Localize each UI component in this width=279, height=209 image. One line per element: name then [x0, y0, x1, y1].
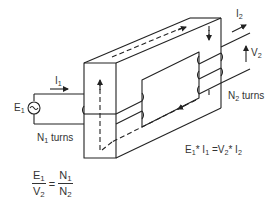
- n2-turns-label: N2 turns: [228, 91, 264, 101]
- equals-sign: =: [46, 178, 58, 190]
- e1-label: E1: [14, 103, 25, 113]
- core-window: [142, 52, 199, 127]
- secondary-top-lead: [221, 33, 250, 47]
- primary-circuit: [28, 89, 84, 124]
- secondary-winding: [198, 25, 251, 94]
- v2-label: V2: [251, 48, 262, 58]
- i2-arrow-icon: [232, 25, 246, 32]
- primary-winding: [83, 93, 144, 124]
- turns-ratio: N1 N2: [58, 170, 72, 197]
- transformer-diagram: I1 I2 E1 V2 N1 turns N2 turns E1* I1 =V2…: [0, 0, 279, 209]
- power-equation: E1* I1 =V2* I2: [185, 145, 242, 155]
- voltage-ratio: E1 V2: [32, 170, 46, 197]
- flux-arrow-left-icon: [178, 105, 186, 109]
- turns-ratio-equation: E1 V2 = N1 N2: [32, 170, 73, 197]
- i2-label: I2: [236, 9, 243, 19]
- core-top-front-edge: [116, 18, 221, 63]
- sine-wave-icon: [30, 107, 38, 110]
- i1-label: I1: [55, 76, 62, 86]
- n1-turns-label: N1 turns: [37, 133, 73, 143]
- secondary-bottom-lead: [221, 69, 250, 83]
- magnetic-core: [84, 18, 221, 158]
- core-top-back-edge: [84, 18, 190, 63]
- core-front-pillar: [84, 63, 116, 158]
